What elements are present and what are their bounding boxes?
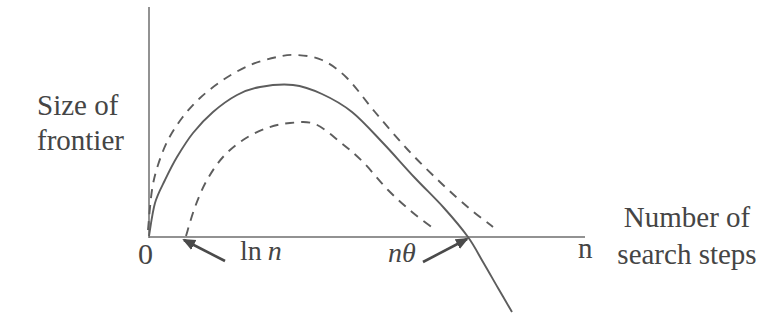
x-end-tick-label: n	[578, 234, 593, 263]
n-theta-annotation-label: nθ	[388, 239, 416, 267]
ln-n-variable-text: n	[268, 235, 282, 266]
ln-n-annotation-label: lnn	[240, 237, 282, 265]
y-axis-label-line1: Size of	[37, 88, 124, 123]
x-axis-label-line1: Number of	[602, 199, 772, 236]
x-axis-label-line2: search steps	[602, 236, 772, 273]
frontier-size-figure: Size of frontier Number of search steps …	[0, 0, 783, 330]
n-theta-variable-text: n	[388, 237, 402, 268]
ln-operator-text: ln	[240, 235, 262, 266]
y-axis-label-line2: frontier	[37, 123, 124, 158]
ln-n-arrow	[184, 240, 225, 261]
theta-symbol-text: θ	[402, 237, 416, 268]
lower-dashed-curve	[186, 122, 433, 236]
n-theta-arrow	[423, 239, 467, 262]
x-axis-label: Number of search steps	[602, 199, 772, 273]
origin-tick-label: 0	[138, 239, 153, 269]
y-axis-label: Size of frontier	[37, 88, 124, 158]
plot-canvas	[0, 0, 783, 330]
frontier-size-solid-curve	[149, 85, 512, 312]
